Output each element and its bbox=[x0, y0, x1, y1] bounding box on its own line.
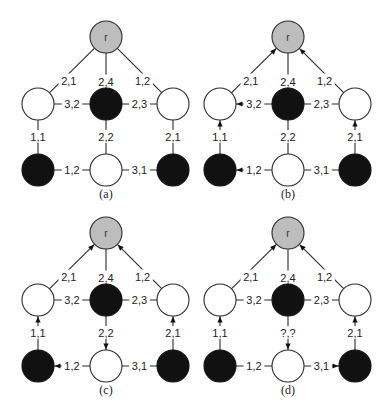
edge-label-mm-mr: 2,3 bbox=[314, 294, 329, 306]
edge-label-ml-mm: 3,2 bbox=[64, 294, 79, 306]
edge-label-ml-bl: 1,1 bbox=[30, 131, 45, 143]
node-ml-white bbox=[204, 88, 236, 120]
edge-label-r-ml: 2,1 bbox=[243, 75, 258, 87]
node-bl-black bbox=[22, 154, 54, 186]
node-bl-black bbox=[22, 350, 54, 382]
edge-label-bl-bm: 1,2 bbox=[64, 164, 79, 176]
edge-label-ml-bl: 1,1 bbox=[212, 131, 227, 143]
edge-label-ml-mm: 3,2 bbox=[246, 98, 261, 110]
edge-label-mm-bm: 2,2 bbox=[280, 131, 295, 143]
node-mm-black bbox=[272, 284, 304, 316]
panel-caption-b: (b) bbox=[281, 187, 295, 201]
edge-label-bl-bm: 1,2 bbox=[246, 164, 261, 176]
edge-label-r-mr: 1,2 bbox=[135, 271, 150, 283]
edge-label-bl-bm: 1,2 bbox=[64, 360, 79, 372]
edge-label-r-mm: 2,4 bbox=[98, 272, 113, 284]
panel-a: 2,12,41,23,22,31,12,22,11,23,1r(a) bbox=[22, 21, 189, 201]
edge-label-r-mm: 2,4 bbox=[280, 272, 295, 284]
graph-figure: 2,12,41,23,22,31,12,22,11,23,1r(a)2,12,4… bbox=[0, 0, 389, 414]
edge-label-ml-mm: 3,2 bbox=[246, 294, 261, 306]
panel-caption-a: (a) bbox=[99, 187, 112, 201]
panel-c: 2,12,41,23,22,31,12,22,11,23,1r(c) bbox=[22, 217, 189, 397]
edge-label-mm-mr: 2,3 bbox=[132, 98, 147, 110]
edge-label-bl-bm: 1,2 bbox=[246, 360, 261, 372]
edge-label-mm-bm: 2,2 bbox=[98, 327, 113, 339]
edge-label-mm-mr: 2,3 bbox=[132, 294, 147, 306]
panel-b: 2,12,41,23,22,31,12,22,11,23,1r(b) bbox=[204, 21, 371, 201]
panel-d: 2,12,41,23,22,31,1?,?2,11,23,1r(d) bbox=[204, 217, 371, 397]
edge-label-bm-br: 3,1 bbox=[132, 360, 147, 372]
edge-label-r-ml: 2,1 bbox=[61, 271, 76, 283]
edge-label-mr-br: 2,1 bbox=[165, 327, 180, 339]
node-ml-white bbox=[22, 284, 54, 316]
edge-label-mr-br: 2,1 bbox=[165, 131, 180, 143]
node-mr-white bbox=[339, 284, 371, 316]
arrowhead-icon bbox=[237, 167, 243, 172]
edge-label-mr-br: 2,1 bbox=[347, 327, 362, 339]
node-mm-black bbox=[90, 284, 122, 316]
edge-label-r-ml: 2,1 bbox=[243, 271, 258, 283]
node-br-black bbox=[339, 154, 371, 186]
arrowhead-icon bbox=[285, 344, 290, 350]
arrowhead-icon bbox=[352, 121, 357, 127]
node-mm-black bbox=[90, 88, 122, 120]
edge-label-r-mm: 2,4 bbox=[280, 76, 295, 88]
node-bm-white bbox=[272, 350, 304, 382]
arrowhead-icon bbox=[237, 101, 243, 106]
node-mm-black bbox=[272, 88, 304, 120]
node-mr-white bbox=[339, 88, 371, 120]
edge-label-mm-bm: 2,2 bbox=[98, 131, 113, 143]
node-bl-black bbox=[204, 154, 236, 186]
node-ml-white bbox=[22, 88, 54, 120]
arrowhead-icon bbox=[103, 344, 108, 350]
edge-label-mr-br: 2,1 bbox=[347, 131, 362, 143]
node-br-black bbox=[157, 350, 189, 382]
arrowhead-icon bbox=[217, 317, 222, 323]
node-bm-white bbox=[272, 154, 304, 186]
edge-label-bm-br: 3,1 bbox=[314, 164, 329, 176]
node-ml-white bbox=[204, 284, 236, 316]
edge-label-ml-bl: 1,1 bbox=[30, 327, 45, 339]
arrowhead-icon bbox=[352, 317, 357, 323]
edge-label-r-mm: 2,4 bbox=[98, 76, 113, 88]
node-bm-white bbox=[90, 154, 122, 186]
edge-label-mm-bm: ?,? bbox=[280, 327, 295, 339]
arrowhead-icon bbox=[217, 121, 222, 127]
edge-label-ml-bl: 1,1 bbox=[212, 327, 227, 339]
arrowhead-icon bbox=[35, 317, 40, 323]
edge-label-r-mr: 1,2 bbox=[135, 75, 150, 87]
edge-label-bm-br: 3,1 bbox=[314, 360, 329, 372]
node-mr-white bbox=[157, 284, 189, 316]
edge-label-r-mr: 1,2 bbox=[317, 271, 332, 283]
edge-label-r-ml: 2,1 bbox=[61, 75, 76, 87]
node-mr-white bbox=[157, 88, 189, 120]
edge-label-ml-mm: 3,2 bbox=[64, 98, 79, 110]
arrowhead-icon bbox=[170, 317, 175, 323]
panel-caption-c: (c) bbox=[99, 383, 112, 397]
arrowhead-icon bbox=[333, 363, 339, 368]
node-br-black bbox=[339, 350, 371, 382]
arrowhead-icon bbox=[55, 363, 61, 368]
edge-label-bm-br: 3,1 bbox=[132, 164, 147, 176]
edge-label-mm-mr: 2,3 bbox=[314, 98, 329, 110]
edge-label-r-mr: 1,2 bbox=[317, 75, 332, 87]
panel-caption-d: (d) bbox=[281, 383, 295, 397]
node-br-black bbox=[157, 154, 189, 186]
node-bl-black bbox=[204, 350, 236, 382]
node-bm-white bbox=[90, 350, 122, 382]
